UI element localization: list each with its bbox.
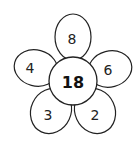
petal-bottom-right-value: 2	[91, 107, 100, 123]
flower-center: 18	[49, 57, 97, 105]
petal-top: 8	[55, 14, 91, 60]
center-value: 18	[62, 73, 84, 92]
petal-left-value: 4	[26, 60, 35, 76]
petal-top-value: 8	[68, 31, 77, 47]
number-flower-diagram: 8 4 6 3 2 18	[0, 0, 138, 146]
petal-bottom-left-value: 3	[44, 107, 53, 123]
petal-right-value: 6	[104, 62, 113, 78]
